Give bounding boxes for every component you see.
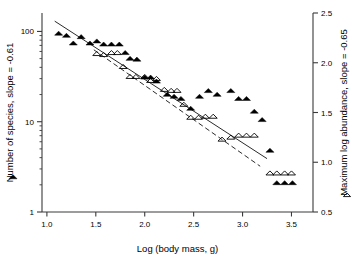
data-point — [213, 92, 221, 96]
x-tick-label: 2.5 — [188, 220, 200, 229]
data-point — [121, 51, 129, 55]
x-tick-label: 1.0 — [41, 220, 53, 229]
data-point — [115, 42, 123, 46]
data-point — [242, 133, 250, 137]
data-point — [196, 94, 204, 98]
data-point — [273, 181, 281, 185]
data-point — [235, 133, 243, 137]
left-tick-label: 100 — [21, 27, 35, 36]
right-axis-title: Maximum log abundance, slope = -0.65 — [338, 29, 349, 196]
right-tick-label: 2.5 — [321, 9, 333, 18]
data-point — [235, 96, 243, 100]
x-axis-title: Log (body mass, g) — [137, 243, 218, 254]
data-point — [204, 89, 212, 93]
data-point — [273, 171, 281, 175]
data-point — [93, 39, 101, 43]
data-point — [250, 133, 258, 137]
right-tick-label: 2.0 — [321, 59, 333, 68]
series-open-triangles — [93, 51, 296, 175]
data-point — [281, 171, 289, 175]
data-point — [250, 109, 258, 113]
scatter-plot-svg: 1.01.52.02.53.03.5Log (body mass, g)1101… — [0, 0, 359, 260]
data-point — [201, 114, 209, 118]
data-point — [281, 181, 289, 185]
data-point — [209, 114, 217, 118]
data-point — [160, 87, 168, 91]
right-tick-label: 1.0 — [321, 158, 333, 167]
data-point — [69, 41, 77, 45]
chart-figure: 1.01.52.02.53.03.5Log (body mass, g)1101… — [0, 0, 359, 260]
data-point — [62, 33, 70, 37]
data-point — [173, 88, 181, 92]
x-tick-label: 3.0 — [237, 220, 249, 229]
data-point — [126, 56, 134, 60]
species-fit-line — [55, 21, 267, 158]
abundance-fit-line — [94, 50, 260, 166]
x-tick-label: 3.5 — [286, 220, 298, 229]
data-point — [287, 171, 295, 175]
data-point — [93, 52, 101, 56]
data-point — [242, 96, 250, 100]
left-tick-label: 1 — [30, 208, 35, 217]
x-tick-label: 1.5 — [90, 220, 102, 229]
data-point — [288, 181, 296, 185]
data-point — [133, 57, 141, 61]
right-tick-label: 0.5 — [321, 208, 333, 217]
right-tick-label: 1.5 — [321, 109, 333, 118]
data-point — [113, 51, 121, 55]
data-point — [55, 31, 63, 35]
data-point — [119, 64, 127, 68]
data-point — [107, 42, 115, 46]
left-tick-label: 10 — [25, 118, 34, 127]
data-point — [266, 171, 274, 175]
data-point — [258, 118, 266, 122]
data-point — [227, 89, 235, 93]
x-tick-label: 2.0 — [139, 220, 151, 229]
data-point — [163, 92, 171, 96]
data-point — [266, 148, 274, 152]
series-filled-triangles — [55, 31, 297, 185]
left-axis-title: Number of species, slope = -0.61 — [4, 43, 15, 183]
